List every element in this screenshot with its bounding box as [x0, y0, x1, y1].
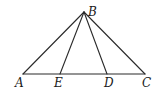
segment-be — [60, 12, 84, 74]
segment-ab — [23, 12, 84, 74]
label-d: D — [103, 76, 114, 90]
label-c: C — [142, 76, 151, 90]
label-b: B — [87, 5, 97, 19]
segment-bd — [84, 12, 107, 74]
label-e: E — [53, 76, 63, 90]
label-a: A — [14, 76, 24, 90]
triangle-diagram: B A E D C — [0, 0, 159, 90]
segment-bc — [84, 12, 145, 74]
